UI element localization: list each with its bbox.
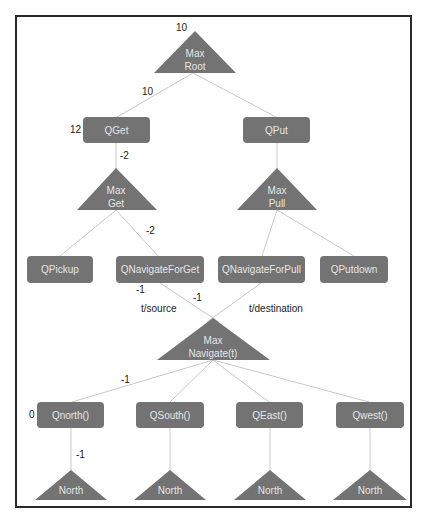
north-label-1: North [31, 484, 111, 497]
edge-root-qput [193, 73, 276, 117]
max-get-label: Max Get [76, 184, 156, 210]
edge-label-navigate-qnorth: -1 [121, 374, 130, 385]
north-label-4: North [330, 484, 410, 497]
max-root-label: Max Root [155, 47, 235, 73]
qpickup-label: QPickup [41, 264, 79, 275]
max-root-line2: Root [155, 60, 235, 73]
qnavigateforpull-node: QNavigateForPull [218, 256, 305, 283]
qwest-node: Qwest() [336, 402, 404, 428]
max-navigate-line1: Max [173, 334, 253, 347]
edge-label-qnavforget-left: -1 [136, 284, 145, 295]
edge-label-qnorth-north: -1 [76, 449, 85, 460]
edge-maxpull-qnavforpull [262, 210, 277, 256]
edge-navigate-qwest [213, 360, 369, 402]
max-root-line1: Max [155, 47, 235, 60]
max-navigate-label: Max Navigate(t) [173, 334, 253, 360]
maxq-diagram: Max Root Max Get Max Pull Max Navigate(t… [0, 0, 431, 528]
qnorth-value: 0 [29, 409, 35, 420]
edge-label-maxget-qnavforget: -2 [146, 225, 155, 236]
max-pull-line1: Max [237, 184, 317, 197]
edge-maxpull-qputdown [277, 210, 354, 256]
max-get-line1: Max [76, 184, 156, 197]
qsouth-node: QSouth() [136, 402, 204, 428]
qnavigateforget-node: QNavigateForGet [116, 256, 204, 283]
max-navigate-line2: Navigate(t) [173, 347, 253, 360]
qnavigateforpull-label: QNavigateForPull [222, 264, 301, 275]
qput-label: QPut [265, 125, 288, 136]
edge-root-qget [117, 73, 193, 117]
edge-label-root-qget: 10 [142, 86, 153, 97]
north-label-2: North [130, 484, 210, 497]
qget-value: 12 [70, 124, 81, 135]
qget-node: QGet [83, 117, 150, 143]
edge-label-qget-maxget: -2 [120, 150, 129, 161]
qeast-node: QEast() [236, 402, 303, 428]
root-value: 10 [176, 22, 187, 33]
edge-label-t-destination: t/destination [249, 303, 303, 314]
qnorth-node: Qnorth() [37, 402, 104, 428]
qget-label: QGet [105, 125, 129, 136]
qeast-label: QEast() [252, 410, 286, 421]
qwest-label: Qwest() [353, 410, 388, 421]
qnavigateforget-label: QNavigateForGet [121, 264, 199, 275]
qputdown-node: QPutdown [320, 256, 388, 283]
qput-node: QPut [243, 117, 310, 143]
max-pull-line2: Pull [237, 197, 317, 210]
edge-navigate-qeast [213, 360, 269, 402]
edge-label-qnavforget-right: -1 [193, 292, 202, 303]
qsouth-label: QSouth() [150, 410, 191, 421]
max-get-line2: Get [76, 197, 156, 210]
qpickup-node: QPickup [27, 256, 93, 283]
north-label-3: North [230, 484, 310, 497]
edge-maxget-qpickup [60, 210, 116, 256]
max-pull-label: Max Pull [237, 184, 317, 210]
edge-label-t-source: t/source [141, 303, 177, 314]
qnorth-label: Qnorth() [52, 410, 89, 421]
qputdown-label: QPutdown [331, 264, 378, 275]
